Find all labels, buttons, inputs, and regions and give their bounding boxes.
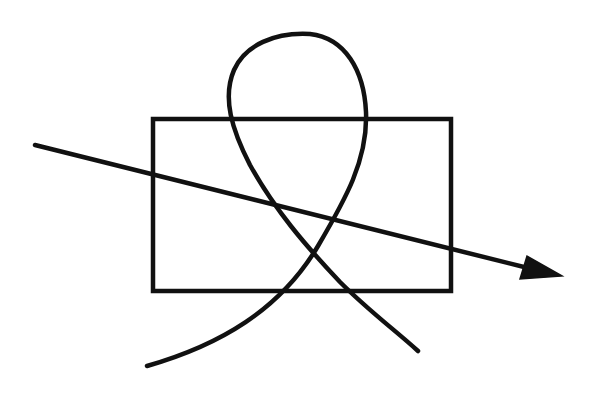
diagram-canvas (0, 0, 592, 398)
background (0, 0, 592, 398)
